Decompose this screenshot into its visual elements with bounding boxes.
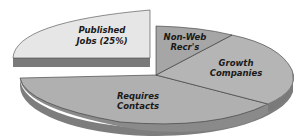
slice-published-jobs-side bbox=[13, 58, 150, 67]
label-published-1: Published bbox=[79, 25, 127, 35]
label-nonweb-1: Non-Web bbox=[164, 32, 207, 42]
label-requires-1: Requires bbox=[117, 91, 159, 101]
label-growth-2: Companies bbox=[210, 68, 263, 78]
label-growth-1: Growth bbox=[219, 58, 254, 68]
label-nonweb-2: Recr's bbox=[171, 42, 200, 52]
pie-chart: Published Jobs (25%) Non-Web Recr's Grow… bbox=[0, 0, 303, 140]
label-published-2: Jobs (25%) bbox=[74, 36, 127, 46]
label-requires-2: Contacts bbox=[117, 101, 159, 111]
